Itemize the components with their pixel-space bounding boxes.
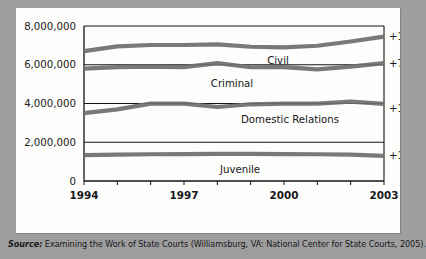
change-label-juvenile: +10% <box>389 150 400 161</box>
series-label-criminal: Criminal <box>211 78 253 89</box>
line-chart-svg: 8,000,0006,000,0004,000,0002,000,0000 19… <box>16 8 400 204</box>
chart-panel: 8,000,0006,000,0004,000,0002,000,0000 19… <box>16 8 400 233</box>
x-axis-tick-labels: 1994199720002003 <box>70 189 399 201</box>
x-axis-tick-label: 1994 <box>70 189 99 201</box>
series-name-labels: CivilCriminalDomestic RelationsJuvenile <box>211 55 339 175</box>
change-label-domestic-relations: +14% <box>389 103 400 114</box>
series-label-juvenile: Juvenile <box>219 164 260 175</box>
series-line-juvenile <box>84 154 384 156</box>
source-text: Examining the Work of State Courts (Will… <box>45 239 426 249</box>
series-change-labels: +13%+7%+14%+10% <box>389 31 400 161</box>
y-axis-tick-label: 6,000,000 <box>24 59 76 70</box>
y-axis-tick-label: 4,000,000 <box>24 98 76 109</box>
source-label: Source: <box>8 239 42 249</box>
y-axis-tick-label: 0 <box>70 176 76 187</box>
y-axis-tick-label: 2,000,000 <box>24 137 76 148</box>
y-axis-tick-labels: 8,000,0006,000,0004,000,0002,000,0000 <box>24 21 76 187</box>
series-line-civil <box>84 37 384 52</box>
x-axis-tick-label: 2000 <box>270 189 299 201</box>
x-axis-tick-label: 2003 <box>370 189 399 201</box>
change-label-civil: +13% <box>389 31 400 42</box>
x-axis-tick-label: 1997 <box>170 189 199 201</box>
series-lines <box>84 37 384 156</box>
plot-area: 8,000,0006,000,0004,000,0002,000,0000 19… <box>16 8 400 204</box>
series-label-domestic-relations: Domestic Relations <box>241 114 339 125</box>
source-caption: Source: Examining the Work of State Cour… <box>8 239 408 249</box>
y-axis-tick-label: 8,000,000 <box>24 21 76 32</box>
series-line-criminal <box>84 63 384 69</box>
change-label-criminal: +7% <box>389 58 400 69</box>
series-label-civil: Civil <box>267 55 289 66</box>
